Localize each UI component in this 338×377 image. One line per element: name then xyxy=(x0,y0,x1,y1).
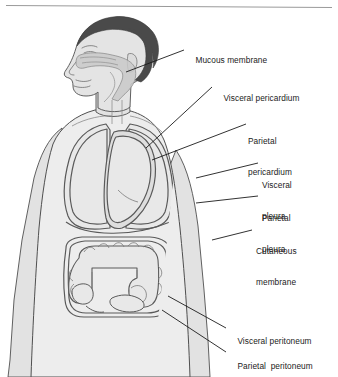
label-cutaneous-membrane: Cutaneous membrane xyxy=(256,226,297,308)
label-mucous-membrane: Mucous membrane xyxy=(186,45,267,76)
leader-visceral-pericardium xyxy=(146,87,212,148)
anatomy-figure: Mucous membrane Visceral pericardium Par… xyxy=(0,0,338,377)
label-parietal-peritoneum: Parietal peritoneum xyxy=(228,351,313,377)
cecum xyxy=(72,284,93,304)
top-rule xyxy=(6,6,332,8)
leader-cutaneous-membrane xyxy=(212,230,252,240)
label-visceral-pericardium: Visceral pericardium xyxy=(214,83,299,114)
